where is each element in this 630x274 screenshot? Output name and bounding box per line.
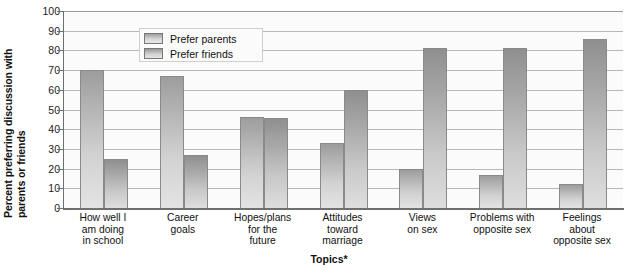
legend-label-parents: Prefer parents <box>170 33 237 45</box>
category-label-line: opposite sex <box>538 235 626 247</box>
plot-area: Prefer parents Prefer friends <box>63 11 623 208</box>
category-label-2: Careergoals <box>139 212 227 235</box>
category-label-line: on sex <box>378 224 466 236</box>
category-label-5: Viewson sex <box>378 212 466 235</box>
y-axis-tick-labels: 1009080706050403020100 <box>36 0 60 215</box>
y-axis-title: Percent preferring discussion with paren… <box>0 0 34 212</box>
x-axis-title: Topics* <box>0 253 630 265</box>
category-label-7: Feelingsaboutopposite sex <box>538 212 626 247</box>
category-label-line: marriage <box>299 235 387 247</box>
category-label-line: Feelings <box>538 212 626 224</box>
category-label-line: Hopes/plans <box>219 212 307 224</box>
category-label-line: future <box>219 235 307 247</box>
bar-friends-3 <box>264 118 288 208</box>
legend-label-friends: Prefer friends <box>170 48 233 60</box>
category-label-line: toward <box>299 224 387 236</box>
category-label-3: Hopes/plansfor thefuture <box>219 212 307 247</box>
category-label-line: Problems with <box>458 212 546 224</box>
bar-parents-1 <box>80 70 104 208</box>
category-label-line: am doing <box>59 224 147 236</box>
category-label-line: opposite sex <box>458 224 546 236</box>
bar-friends-2 <box>184 155 208 208</box>
legend-swatch-icon-friends <box>144 48 163 59</box>
bar-friends-6 <box>503 48 527 208</box>
category-label-1: How well Iam doingin school <box>59 212 147 247</box>
category-label-line: goals <box>139 224 227 236</box>
category-label-line: in school <box>59 235 147 247</box>
y-axis-title-line-2: parents or friends <box>15 8 27 218</box>
bar-friends-7 <box>583 39 607 208</box>
category-label-line: Career <box>139 212 227 224</box>
legend-item-prefer-parents: Prefer parents <box>144 32 258 45</box>
bar-parents-5 <box>399 169 423 208</box>
bar-parents-7 <box>559 184 583 208</box>
category-label-line: Views <box>378 212 466 224</box>
bar-parents-6 <box>479 175 503 208</box>
legend: Prefer parents Prefer friends <box>139 28 263 62</box>
x-axis-line <box>63 208 624 210</box>
category-label-line: Attitudes <box>299 212 387 224</box>
bar-chart: Percent preferring discussion with paren… <box>0 0 630 274</box>
legend-item-prefer-friends: Prefer friends <box>144 47 258 60</box>
category-label-6: Problems withopposite sex <box>458 212 546 235</box>
x-axis-category-labels: How well Iam doingin schoolCareergoalsHo… <box>63 212 624 256</box>
category-label-line: for the <box>219 224 307 236</box>
bar-parents-4 <box>320 143 344 208</box>
bar-friends-1 <box>104 159 128 208</box>
bar-parents-3 <box>240 117 264 208</box>
category-label-line: about <box>538 224 626 236</box>
category-label-line: How well I <box>59 212 147 224</box>
y-axis-title-line-1: Percent preferring discussion with <box>2 8 14 218</box>
bar-friends-4 <box>344 90 368 208</box>
bar-parents-2 <box>160 76 184 208</box>
bar-friends-5 <box>423 48 447 208</box>
legend-swatch-icon-parents <box>144 33 163 44</box>
category-label-4: Attitudestowardmarriage <box>299 212 387 247</box>
